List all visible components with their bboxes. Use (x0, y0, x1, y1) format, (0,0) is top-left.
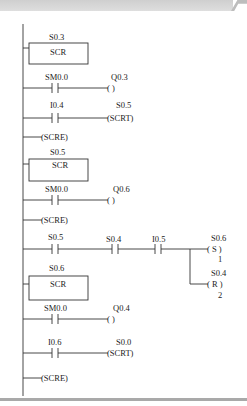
contact-label: SM0.0 (44, 303, 67, 313)
scr-operand: S0.3 (49, 32, 64, 42)
coil-output: ( ) (107, 83, 115, 93)
coil-output: ( ) (107, 195, 115, 205)
set-count: 1 (218, 254, 222, 264)
scr-label: SCR (50, 279, 66, 289)
contact-label: S0.4 (106, 234, 122, 244)
rung-sm0-0-q0-4: SM0.0 Q0.4 ( ) (23, 303, 131, 324)
set-coil-operand: S0.6 (211, 233, 226, 243)
rung-i0-4-scrt: I0.4 S0.5 (SCRT) (23, 100, 134, 123)
rung-scr-s0-6: S0.6 SCR (23, 263, 88, 300)
reset-coil-operand: S0.4 (211, 268, 227, 278)
contact-label: SM0.0 (45, 184, 68, 194)
coil-operand: S0.0 (116, 337, 131, 347)
scrt-coil: (SCRT) (107, 348, 134, 358)
coil-operand: S0.5 (116, 100, 131, 110)
coil-operand: Q0.3 (111, 72, 128, 82)
rung-scre-1: (SCRE) (23, 132, 68, 142)
rung-scre-3: (SCRE) (23, 373, 68, 383)
scr-label: SCR (52, 160, 68, 170)
scre-coil: (SCRE) (41, 373, 68, 383)
scre-coil: (SCRE) (41, 132, 68, 142)
contact-label: I0.4 (50, 100, 64, 110)
scr-operand: S0.6 (49, 263, 64, 273)
rung-sm0-0-q0-6: SM0.0 Q0.6 ( ) (23, 184, 130, 205)
coil-operand: Q0.4 (113, 303, 131, 313)
rung-scre-2: (SCRE) (23, 215, 68, 225)
contact-label: SM0.0 (45, 72, 68, 82)
set-coil: ( S ) (207, 244, 222, 254)
scrt-coil: (SCRT) (107, 113, 134, 123)
scr-operand: S0.5 (50, 147, 65, 157)
scr-label: SCR (50, 47, 66, 57)
rung-scr-s0-3: S0.3 SCR (23, 32, 88, 64)
scre-coil: (SCRE) (41, 215, 68, 225)
reset-coil: ( R ) (207, 279, 223, 289)
contact-label: I0.5 (152, 234, 165, 244)
rung-scr-s0-5: S0.5 SCR (23, 147, 88, 181)
coil-output: ( ) (107, 314, 115, 324)
reset-count: 2 (218, 290, 222, 300)
contact-label: S0.5 (48, 232, 63, 242)
rung-i0-6-scrt: I0.6 S0.0 (SCRT) (23, 337, 134, 358)
ladder-diagram: S0.3 SCR SM0.0 Q0.3 ( ) I0.4 S0.5 (SCRT)… (0, 0, 247, 406)
contact-label: I0.6 (48, 337, 61, 347)
coil-operand: Q0.6 (113, 184, 130, 194)
rung-sm0-0-q0-3: SM0.0 Q0.3 ( ) (23, 72, 128, 93)
